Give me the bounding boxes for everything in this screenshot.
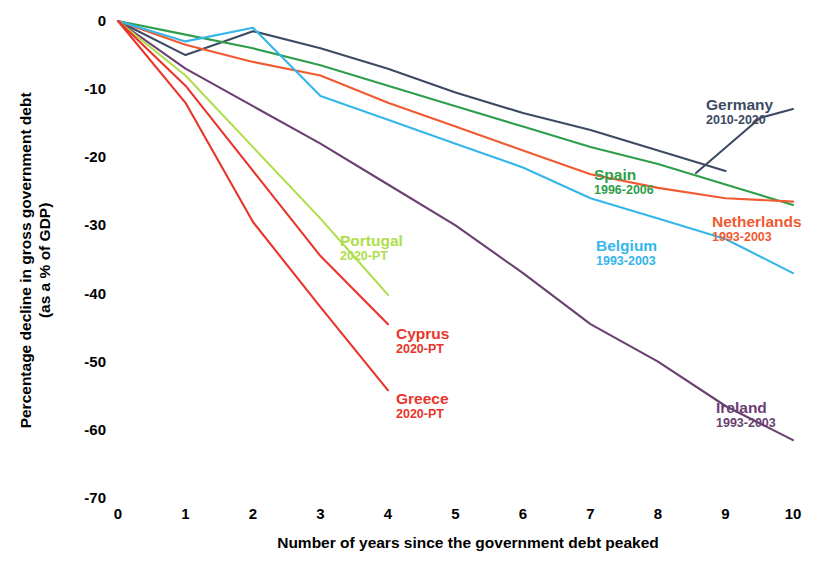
series-label-belgium: Belgium1993-2003 <box>596 237 657 269</box>
series-label-name: Germany <box>706 96 773 113</box>
series-label-ireland: Ireland1993-2003 <box>716 399 776 431</box>
series-label-name: Cyprus <box>396 325 449 342</box>
series-label-period: 2020-PT <box>340 250 403 264</box>
series-label-greece: Greece2020-PT <box>396 390 449 422</box>
chart-figure: Percentage decline in gross government d… <box>0 0 827 576</box>
series-label-cyprus: Cyprus2020-PT <box>396 325 449 357</box>
series-line-belgium <box>118 21 793 273</box>
series-line-spain <box>118 21 793 205</box>
series-label-name: Spain <box>594 166 654 183</box>
series-label-period: 1993-2003 <box>716 417 776 431</box>
series-label-period: 1996-2006 <box>594 184 654 198</box>
series-label-netherlands: Netherlands1993-2003 <box>712 213 802 245</box>
series-label-germany: Germany2010-2020 <box>706 96 773 128</box>
series-label-period: 1993-2003 <box>596 255 657 269</box>
series-label-period: 2020-PT <box>396 343 449 357</box>
series-label-name: Portugal <box>340 232 403 249</box>
series-label-name: Ireland <box>716 399 776 416</box>
series-label-portugal: Portugal2020-PT <box>340 232 403 264</box>
series-label-name: Greece <box>396 390 449 407</box>
x-axis-title: Number of years since the government deb… <box>118 534 818 552</box>
series-label-period: 1993-2003 <box>712 231 802 245</box>
series-label-spain: Spain1996-2006 <box>594 166 654 198</box>
plot-area <box>0 0 827 576</box>
series-line-cyprus <box>118 21 388 324</box>
series-line-greece <box>118 21 388 390</box>
series-label-period: 2010-2020 <box>706 114 773 128</box>
series-label-name: Netherlands <box>712 213 802 230</box>
series-label-period: 2020-PT <box>396 408 449 422</box>
series-line-ireland <box>118 21 793 440</box>
series-label-name: Belgium <box>596 237 657 254</box>
